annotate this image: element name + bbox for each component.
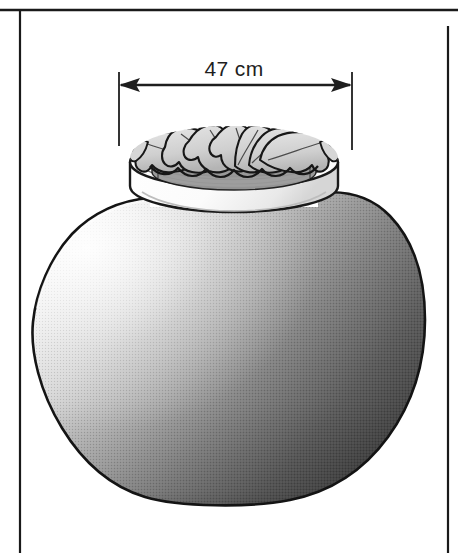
jar-vessel — [20, 124, 440, 530]
jar-illustration: 47 cm — [0, 0, 458, 553]
petal-front-fan — [127, 124, 340, 173]
jar-body — [20, 180, 440, 530]
figure-root: 47 cm — [0, 0, 458, 553]
dimension-label: 47 cm — [204, 57, 263, 80]
lotus-petal-cluster — [127, 124, 340, 177]
